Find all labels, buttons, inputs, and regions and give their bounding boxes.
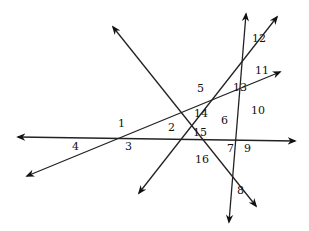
angle-label-8: 8 [237, 184, 244, 197]
angle-label-4: 4 [72, 140, 79, 153]
intersecting-lines-diagram: 12345678910111213141516 [0, 0, 309, 231]
angle-label-1: 1 [118, 117, 125, 130]
angle-label-15: 15 [193, 126, 207, 139]
angle-label-14: 14 [194, 107, 208, 120]
angle-label-16: 16 [195, 153, 209, 166]
angle-label-3: 3 [125, 140, 132, 153]
angle-label-5: 5 [197, 82, 204, 95]
lines-group [18, 14, 295, 222]
angle-label-10: 10 [251, 104, 265, 117]
angle-label-13: 13 [233, 81, 247, 94]
angle-label-12: 12 [252, 32, 266, 45]
angle-label-7: 7 [227, 142, 234, 155]
angle-label-6: 6 [221, 114, 228, 127]
angle-label-11: 11 [255, 64, 269, 77]
angle-label-9: 9 [244, 142, 251, 155]
line-horizontal [18, 137, 295, 141]
line-descending [113, 27, 256, 206]
angle-labels-group: 12345678910111213141516 [72, 32, 269, 197]
angle-label-2: 2 [168, 121, 175, 134]
